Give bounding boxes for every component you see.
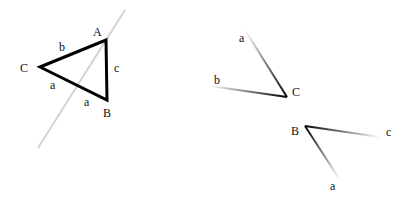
side-label-c: c <box>114 61 119 75</box>
angle-c-ray-label-a: a <box>239 31 245 45</box>
angle-c-vertex-label: C <box>292 85 300 99</box>
angle-c-figure: C a b <box>210 30 300 99</box>
diagram-svg: A B C b c a a C a b B c a <box>0 0 414 201</box>
ray-c-b <box>210 86 287 97</box>
ray-b-c <box>305 126 380 137</box>
angle-b-vertex-label: B <box>291 124 299 138</box>
vertex-label-a: A <box>93 25 102 39</box>
angle-b-figure: B c a <box>291 124 391 193</box>
angle-c-ray-label-b: b <box>214 73 220 87</box>
side-label-b: b <box>59 40 65 54</box>
angle-b-ray-label-c: c <box>386 125 391 139</box>
left-triangle-figure: A B C b c a a <box>20 10 125 148</box>
vertex-label-c: C <box>20 61 28 75</box>
diagram-canvas: A B C b c a a C a b B c a <box>0 0 414 201</box>
ray-b-a <box>305 126 340 180</box>
side-label-a-upper: a <box>50 78 56 92</box>
angle-b-ray-label-a: a <box>330 179 336 193</box>
ray-c-a <box>245 30 287 97</box>
vertex-label-b: B <box>103 106 111 120</box>
side-label-a-lower: a <box>84 95 90 109</box>
